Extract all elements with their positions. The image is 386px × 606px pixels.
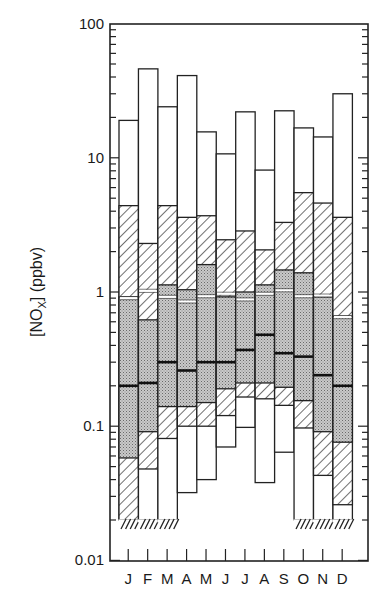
- x-tick-label: O: [297, 570, 309, 587]
- month-bar: [157, 107, 178, 529]
- x-tick-label: J: [241, 570, 249, 587]
- y-tick-label: 1: [96, 283, 104, 300]
- month-bar: [293, 128, 314, 529]
- x-tick-label: D: [337, 570, 348, 587]
- x-tick-label: F: [143, 570, 152, 587]
- x-axis-ticks: JFMAMJJASOND: [124, 549, 347, 587]
- y-tick-label: 100: [79, 15, 104, 32]
- month-bar: [275, 111, 294, 452]
- x-tick-label: A: [259, 570, 269, 587]
- month-bar: [313, 137, 334, 529]
- month-bar: [118, 120, 139, 529]
- month-bar: [197, 132, 216, 480]
- x-tick-label: N: [317, 570, 328, 587]
- month-bar: [255, 170, 274, 483]
- month-bar: [332, 94, 353, 529]
- month-bar: [177, 76, 196, 493]
- monthly-bars: [118, 69, 353, 529]
- month-bar: [236, 112, 255, 428]
- x-tick-label: J: [222, 570, 230, 587]
- x-tick-label: J: [124, 570, 132, 587]
- nox-monthly-chart: [NOX] (ppbv) 0.010.1110100 JFMAMJJASOND: [0, 0, 386, 606]
- y-tick-label: 0.01: [75, 551, 104, 568]
- x-tick-label: A: [182, 570, 192, 587]
- y-axis-label: [NOX] (ppbv): [28, 247, 48, 337]
- x-tick-label: M: [161, 570, 174, 587]
- x-tick-label: M: [200, 570, 213, 587]
- month-bar: [138, 69, 159, 529]
- y-tick-label: 0.1: [83, 417, 104, 434]
- x-tick-label: S: [279, 570, 289, 587]
- y-tick-label: 10: [87, 149, 104, 166]
- month-bar: [216, 154, 235, 447]
